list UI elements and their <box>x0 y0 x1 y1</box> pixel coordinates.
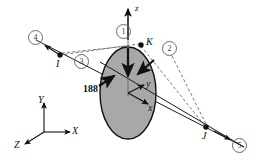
member-2-circle-label: 2 <box>162 41 177 56</box>
point-K-label: K <box>146 37 153 47</box>
member-5-circle-label: 5 <box>232 138 247 153</box>
arrow-toward-5 <box>214 131 230 140</box>
dimension-188-label: 188 <box>83 84 98 94</box>
member-1-circle-label: 1 <box>116 24 131 39</box>
global-Y-axis-label: Y <box>38 95 44 105</box>
global-Z-axis-label: Z <box>14 140 20 150</box>
global-X-axis-label: X <box>72 126 78 136</box>
diagram-svg <box>0 0 256 162</box>
engineering-diagram: z y x Y X Z I J K 188 1 2 3 4 5 <box>0 0 256 162</box>
global-axes-triad <box>25 103 70 144</box>
local-y-axis-label: y <box>146 79 150 89</box>
point-I-label: I <box>56 59 59 69</box>
point-J-label: J <box>202 131 206 141</box>
local-z-axis-label: z <box>135 4 139 13</box>
member-3-circle-label: 3 <box>74 54 89 69</box>
local-x-axis-label: x <box>148 103 152 113</box>
member-4-circle-label: 4 <box>28 30 43 45</box>
